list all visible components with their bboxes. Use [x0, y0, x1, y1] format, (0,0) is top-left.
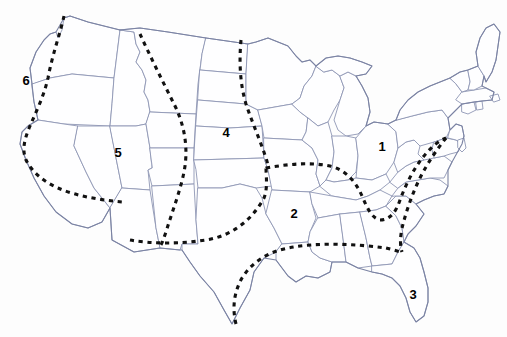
map-svg: [0, 0, 507, 337]
region-label-3: 3: [409, 288, 416, 301]
state-south-dakota: [198, 70, 246, 104]
state-new-mexico: [152, 184, 198, 250]
state-borders-layer: [20, 16, 500, 324]
state-ohio: [356, 122, 398, 180]
state-oregon: [32, 74, 114, 126]
state-rhode-island: [476, 101, 483, 110]
us-regions-map: 1 2 3 4 5 6: [0, 0, 507, 337]
cape-cod: [490, 94, 500, 102]
state-oklahoma: [194, 158, 272, 188]
region-label-2: 2: [290, 207, 297, 220]
state-wyoming: [146, 112, 196, 148]
state-colorado: [148, 148, 194, 186]
region-label-5: 5: [114, 146, 121, 159]
region-label-4: 4: [222, 126, 229, 139]
region-label-1: 1: [378, 140, 385, 153]
region-label-6: 6: [22, 74, 29, 87]
